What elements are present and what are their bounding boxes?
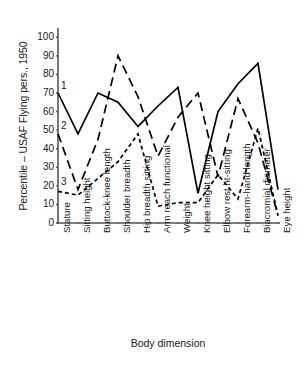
x-tick-label: Buttock-knee length: [102, 148, 112, 233]
x-tick-label: Biacromial diameter: [262, 148, 272, 233]
chart-figure: Percentile – USAF Flying pers., 1950 010…: [0, 0, 304, 367]
x-axis-tick-labels: StatureSitting heightButtock-knee length…: [0, 0, 304, 367]
series-annotation-3: 3: [61, 177, 67, 187]
x-tick-label: Hip breadth sitting: [142, 156, 152, 233]
series-annotation-1: 1: [61, 81, 67, 91]
x-tick-label: Eye height: [282, 188, 292, 233]
x-tick-label: Elbow rest ht-sitting: [222, 149, 232, 233]
x-tick-label: Stature: [62, 202, 72, 233]
x-tick-label: Forearm-hand length: [242, 143, 252, 233]
x-tick-label: Arm reach functional: [162, 145, 172, 233]
x-axis-title: Body dimension: [56, 337, 280, 349]
series-annotation-2: 2: [61, 121, 67, 131]
x-tick-label: Weight: [182, 203, 192, 233]
x-tick-label: Knee height sitting: [202, 154, 212, 233]
x-tick-label: Sitting height: [82, 178, 92, 233]
x-tick-label: Shoulder breadth: [122, 159, 132, 233]
